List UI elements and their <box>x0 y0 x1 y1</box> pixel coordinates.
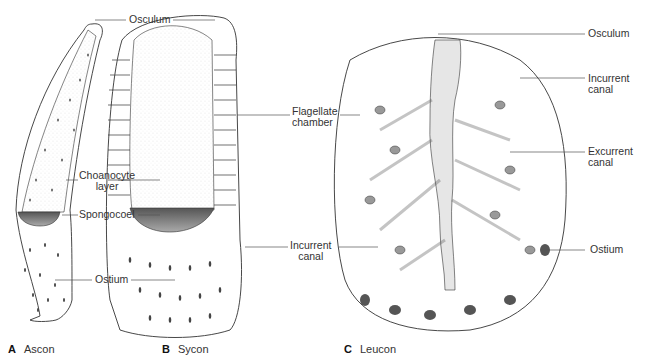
caption-name: Leucon <box>360 343 396 355</box>
caption-leucon: CLeucon <box>344 343 396 355</box>
label-ascon-choanocyte: Choanocyte layer <box>79 170 135 192</box>
label-leucon-excurrent-canal: Excurrent canal <box>588 146 633 168</box>
caption-ascon: AAscon <box>8 343 55 355</box>
label-line: canal <box>588 157 633 168</box>
caption-letter: C <box>344 343 352 355</box>
label-line: canal <box>588 84 629 95</box>
label-ascon-ostium: Ostium <box>95 274 128 285</box>
label-ascon-spongocoel: Spongocoel <box>79 209 134 220</box>
leucon-illustration <box>334 38 566 331</box>
label-line: chamber <box>292 117 338 128</box>
caption-name: Sycon <box>178 343 209 355</box>
label-sycon-flagellate-chamber: Flagellate chamber <box>292 106 338 128</box>
label-leucon-osculum: Osculum <box>588 28 629 39</box>
label-leucon-ostium: Ostium <box>590 244 623 255</box>
label-line: canal <box>290 251 331 262</box>
caption-name: Ascon <box>24 343 55 355</box>
caption-letter: B <box>162 343 170 355</box>
caption-letter: A <box>8 343 16 355</box>
label-sycon-incurrent-canal: Incurrent canal <box>290 240 331 262</box>
label-ascon-osculum: Osculum <box>129 14 170 25</box>
label-leucon-incurrent-canal: Incurrent canal <box>588 73 629 95</box>
label-line: layer <box>79 181 135 192</box>
caption-sycon: BSycon <box>162 343 209 355</box>
